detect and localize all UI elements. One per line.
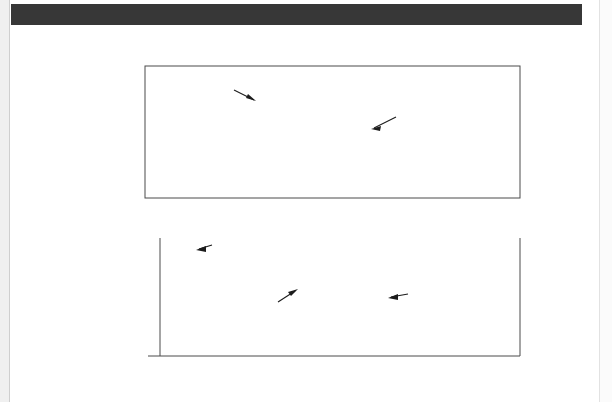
industry-index-chart	[145, 66, 520, 198]
callout-5-arrowhead	[196, 246, 206, 252]
callout-4-group	[388, 294, 408, 300]
callout-4-arrowhead	[388, 294, 398, 300]
callout-3-group	[278, 289, 298, 302]
callout-5-group	[196, 245, 212, 252]
exhibit-charts-svg	[0, 0, 612, 402]
callout-2-group	[371, 117, 396, 131]
callout-1-group	[234, 90, 256, 101]
exhibit-page	[0, 0, 612, 402]
callout-1-arrowhead	[246, 94, 256, 101]
callout-2-leader	[374, 117, 396, 128]
industry-index-plot-frame	[145, 66, 520, 198]
relative-strength-chart	[148, 238, 520, 356]
